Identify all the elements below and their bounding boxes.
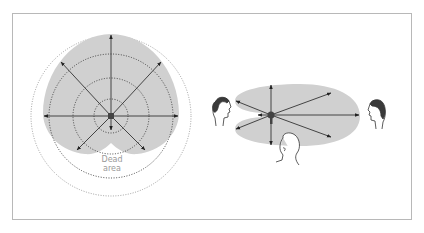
left-speaker-head [213, 97, 231, 126]
microphone-icon [108, 113, 114, 119]
microphone-stem [270, 117, 273, 124]
dead-area-label-line2: area [100, 164, 124, 173]
dead-area-label-line1: Dead [100, 155, 124, 164]
conference-diagram [213, 84, 386, 165]
dead-area-label: Dead area [100, 155, 124, 173]
diagram-canvas [0, 0, 424, 233]
right-speaker-head [368, 100, 385, 129]
